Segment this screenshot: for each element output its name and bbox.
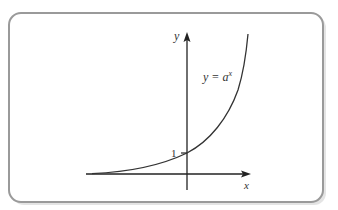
exponential-graph-figure: y x 1 y = ax — [0, 0, 338, 210]
y-intercept-label: 1 — [171, 147, 177, 159]
curve-label: y = ax — [202, 69, 232, 84]
x-axis-label: x — [243, 179, 249, 191]
y-axis-label: y — [173, 29, 180, 43]
